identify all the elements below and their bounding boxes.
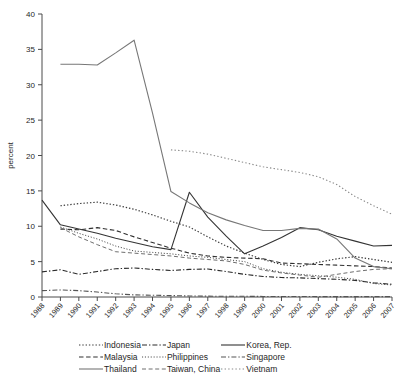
x-tick-label: 2002	[287, 301, 305, 319]
line-chart-plot: 0510152025303540 19881989199019911992199…	[0, 0, 402, 340]
y-axis-label: percent	[6, 141, 15, 168]
data-series-group	[42, 40, 392, 296]
x-tick-label: 1998	[213, 301, 231, 319]
x-tick-label: 2006	[360, 301, 378, 319]
series-line-singapore	[42, 290, 392, 297]
legend-swatch-indonesia	[78, 340, 104, 352]
legend-row: MalaysiaPhilippinesSingapore	[78, 352, 292, 364]
series-line-indonesia	[60, 202, 392, 266]
legend-label-taiwan-china: Taiwan, China	[167, 364, 220, 376]
legend-swatch-philippines	[141, 352, 167, 364]
chart-legend: IndonesiaJapanKorea, Rep.MalaysiaPhilipp…	[78, 340, 378, 376]
x-tick-label: 2004	[323, 301, 341, 319]
x-tick-label: 1991	[84, 301, 102, 319]
y-axis-title: percent	[6, 141, 15, 168]
x-tick-label: 2000	[250, 301, 268, 319]
x-tick-label: 1997	[194, 301, 212, 319]
legend-swatch-japan	[141, 340, 167, 352]
x-tick-label: 1993	[121, 301, 139, 319]
legend-swatch-malaysia	[78, 352, 104, 364]
legend-label-indonesia: Indonesia	[104, 340, 141, 352]
x-tick-label: 1999	[231, 301, 249, 319]
series-line-thailand	[60, 40, 392, 269]
legend-swatch-taiwan-china	[141, 364, 167, 376]
series-line-korea-rep	[42, 192, 392, 254]
legend-label-singapore: Singapore	[246, 352, 291, 364]
y-tick-label: 5	[31, 258, 36, 267]
series-line-malaysia	[60, 228, 392, 268]
y-tick-label: 25	[26, 116, 35, 125]
x-tick-label: 1988	[29, 301, 47, 319]
legend-row: IndonesiaJapanKorea, Rep.	[78, 340, 292, 352]
legend-swatch-korea-rep	[220, 340, 246, 352]
legend-row: ThailandTaiwan, ChinaVietnam	[78, 364, 292, 376]
legend-label-korea-rep: Korea, Rep.	[246, 340, 291, 352]
x-tick-label: 1995	[158, 301, 176, 319]
x-axis-ticks: 1988198919901991199219931994199519961997…	[29, 297, 397, 320]
series-line-vietnam	[171, 150, 392, 214]
x-tick-label: 2003	[305, 301, 323, 319]
legend-swatch-vietnam	[220, 364, 246, 376]
x-tick-label: 2001	[268, 301, 286, 319]
legend-swatch-thailand	[78, 364, 104, 376]
x-tick-label: 1992	[102, 301, 120, 319]
y-tick-label: 0	[31, 293, 36, 302]
series-line-taiwan-china	[60, 228, 392, 278]
legend-label-malaysia: Malaysia	[104, 352, 141, 364]
legend-table: IndonesiaJapanKorea, Rep.MalaysiaPhilipp…	[78, 340, 292, 376]
series-line-japan	[42, 268, 392, 284]
y-tick-label: 20	[26, 152, 35, 161]
legend-swatch-singapore	[220, 352, 246, 364]
legend-label-japan: Japan	[167, 340, 220, 352]
x-tick-label: 1990	[65, 301, 83, 319]
legend-label-vietnam: Vietnam	[246, 364, 291, 376]
y-axis-ticks: 0510152025303540	[26, 10, 42, 302]
legend-label-philippines: Philippines	[167, 352, 220, 364]
y-tick-label: 35	[26, 45, 35, 54]
chart-figure: 0510152025303540 19881989199019911992199…	[0, 0, 402, 387]
y-tick-label: 10	[26, 222, 35, 231]
y-tick-label: 40	[26, 10, 35, 19]
y-tick-label: 30	[26, 81, 35, 90]
legend-label-thailand: Thailand	[104, 364, 141, 376]
x-tick-label: 2007	[379, 301, 397, 319]
y-tick-label: 15	[26, 187, 35, 196]
chart-axes	[42, 14, 392, 297]
x-tick-label: 2005	[342, 301, 360, 319]
x-tick-label: 1996	[176, 301, 194, 319]
x-tick-label: 1994	[139, 301, 157, 319]
x-tick-label: 1989	[47, 301, 65, 319]
